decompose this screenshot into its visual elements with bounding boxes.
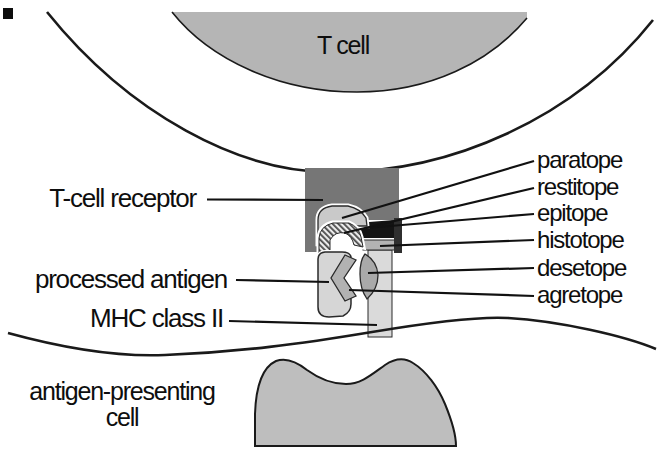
leader-processed-antigen <box>236 280 329 282</box>
leader-tcr <box>207 200 323 201</box>
restitope-region <box>319 223 363 254</box>
leader-desetope <box>368 268 534 273</box>
figure-tcell-apc-diagram: T cell T-cell receptor processed antigen… <box>0 0 665 458</box>
mhc-label: MHC class II <box>90 303 223 333</box>
apc-label-line1: antigen-presenting <box>29 377 215 405</box>
apc-label-line2: cell <box>106 403 139 431</box>
corner-mark <box>3 8 13 19</box>
epitope-label: epitope <box>537 199 608 226</box>
desetope-label: desetope <box>537 254 627 281</box>
receptor-edge-strip <box>394 218 402 253</box>
leader-mhc <box>229 321 377 325</box>
t-cell-label: T cell <box>317 31 369 59</box>
leader-histotope <box>380 240 534 246</box>
agretope-label: agretope <box>537 281 623 308</box>
paratope-label: paratope <box>537 146 623 173</box>
apc-body <box>255 359 456 446</box>
processed-antigen-label: processed antigen <box>35 264 227 294</box>
tcr-label: T-cell receptor <box>49 183 197 213</box>
restitope-label: restitope <box>537 173 619 200</box>
histotope-label: histotope <box>537 226 624 253</box>
diagram-canvas: T cell T-cell receptor processed antigen… <box>0 0 665 458</box>
